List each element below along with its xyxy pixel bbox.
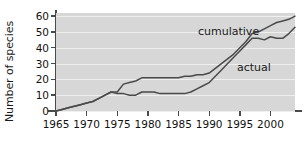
y-axis-tick-label: 30 <box>9 59 49 70</box>
x-axis-tick <box>209 111 210 116</box>
y-axis-tick <box>51 15 56 16</box>
y-axis-tick-label: 50 <box>9 27 49 38</box>
series-label-actual: actual <box>237 62 271 73</box>
x-axis-tick-label: 2000 <box>250 119 290 130</box>
y-axis-tick-label: 10 <box>9 90 49 101</box>
x-axis-tick <box>55 111 56 116</box>
y-axis-tick <box>51 31 56 32</box>
chart-figure: Number of species 0102030405060 19651970… <box>0 0 304 143</box>
x-axis-tick <box>270 111 271 116</box>
y-axis-tick-label: 20 <box>9 74 49 85</box>
x-axis-tick <box>86 111 87 116</box>
y-axis-tick-label: 60 <box>9 11 49 22</box>
y-axis-tick <box>51 47 56 48</box>
x-axis-tick <box>117 111 118 116</box>
x-axis-tick <box>178 111 179 116</box>
y-axis-tick <box>51 94 56 95</box>
y-axis-tick <box>51 63 56 64</box>
x-axis-tick <box>147 111 148 116</box>
y-axis-tick-label: 0 <box>9 106 49 117</box>
x-axis-tick <box>239 111 240 116</box>
gridline <box>56 111 295 112</box>
y-axis-tick <box>51 79 56 80</box>
y-axis-tick-label: 40 <box>9 43 49 54</box>
series-label-cumulative: cumulative <box>198 26 259 37</box>
